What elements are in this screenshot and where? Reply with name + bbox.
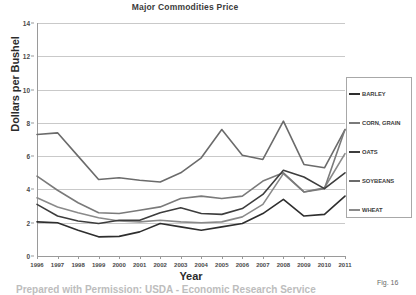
- y-tick-label: 8: [26, 119, 30, 126]
- x-tick-mark: [58, 256, 59, 259]
- x-tick-mark: [99, 256, 100, 259]
- x-tick-label: 2003: [174, 262, 187, 268]
- x-tick-label: 1997: [51, 262, 64, 268]
- y-tick-label: 14: [23, 20, 30, 27]
- x-axis-ticks: [37, 256, 345, 261]
- legend-label: SOYBEANS: [362, 178, 394, 184]
- x-tick-mark: [242, 256, 243, 259]
- y-tick-label: 12: [23, 53, 30, 60]
- x-tick-mark: [324, 256, 325, 259]
- y-tick-mark: [31, 189, 34, 190]
- y-tick-label: 10: [23, 86, 30, 93]
- y-axis-ticks: 02468101214: [0, 23, 34, 256]
- y-tick-mark: [31, 23, 34, 24]
- legend-item-wheat[interactable]: WHEAT: [349, 207, 383, 213]
- x-tick-mark: [160, 256, 161, 259]
- chart-title: Major Commodities Price: [0, 2, 370, 12]
- y-tick-label: 6: [26, 153, 30, 160]
- x-tick-label: 2000: [112, 262, 125, 268]
- x-tick-label: 2009: [297, 262, 310, 268]
- x-tick-mark: [283, 256, 284, 259]
- legend-item-soybeans[interactable]: SOYBEANS: [349, 178, 394, 184]
- y-tick-mark: [31, 89, 34, 90]
- legend-swatch: [349, 151, 360, 153]
- x-axis-title: Year: [37, 270, 345, 282]
- y-tick-label: 2: [26, 219, 30, 226]
- plot-area: [37, 23, 345, 256]
- footer-caption: Prepared with Permission: USDA - Economi…: [16, 284, 356, 295]
- x-tick-mark: [201, 256, 202, 259]
- figure-number: Fig. 16: [377, 279, 398, 286]
- x-tick-mark: [181, 256, 182, 259]
- x-tick-mark: [119, 256, 120, 259]
- series-line-barley: [37, 196, 345, 237]
- x-tick-label: 2006: [236, 262, 249, 268]
- legend-swatch: [349, 122, 360, 124]
- x-tick-label: 2011: [338, 262, 351, 268]
- x-tick-label: 1998: [71, 262, 84, 268]
- y-tick-mark: [31, 122, 34, 123]
- legend-label: OATS: [362, 149, 377, 155]
- legend-swatch: [349, 93, 360, 95]
- x-tick-mark: [263, 256, 264, 259]
- y-tick-mark: [31, 222, 34, 223]
- legend-item-oats[interactable]: OATS: [349, 149, 377, 155]
- legend-label: WHEAT: [362, 207, 383, 213]
- x-tick-mark: [222, 256, 223, 259]
- x-tick-label: 2004: [195, 262, 208, 268]
- x-tick-label: 2002: [154, 262, 167, 268]
- legend-swatch: [349, 180, 360, 182]
- chart-legend: BARLEYCORN, GRAINOATSSOYBEANSWHEAT: [346, 77, 412, 218]
- series-lines: [37, 23, 345, 256]
- x-tick-mark: [304, 256, 305, 259]
- x-tick-label: 2005: [215, 262, 228, 268]
- x-tick-label: 2001: [133, 262, 146, 268]
- legend-label: CORN, GRAIN: [362, 120, 400, 126]
- x-tick-label: 2008: [277, 262, 290, 268]
- y-tick-mark: [31, 56, 34, 57]
- x-tick-label: 1996: [30, 262, 43, 268]
- x-tick-mark: [78, 256, 79, 259]
- y-tick-mark: [31, 156, 34, 157]
- x-tick-label: 2010: [318, 262, 331, 268]
- y-tick-label: 0: [26, 253, 30, 260]
- x-tick-label: 1999: [92, 262, 105, 268]
- legend-item-corn-grain[interactable]: CORN, GRAIN: [349, 120, 400, 126]
- y-tick-label: 4: [26, 186, 30, 193]
- legend-label: BARLEY: [362, 91, 386, 97]
- x-tick-mark: [140, 256, 141, 259]
- series-line-soybeans: [37, 121, 345, 182]
- y-tick-mark: [31, 256, 34, 257]
- x-tick-mark: [37, 256, 38, 259]
- legend-item-barley[interactable]: BARLEY: [349, 91, 386, 97]
- series-line-corn-grain: [37, 130, 345, 214]
- legend-swatch: [349, 209, 360, 211]
- x-tick-label: 2007: [256, 262, 269, 268]
- x-tick-mark: [345, 256, 346, 259]
